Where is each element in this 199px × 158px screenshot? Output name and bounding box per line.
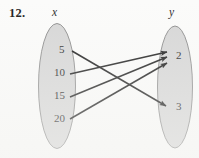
exercise-figure: 12. x y 510152023 <box>0 0 199 158</box>
mapping-arrow-5-to-3 <box>72 51 166 106</box>
range-oval <box>158 26 193 148</box>
domain-element-5: 5 <box>59 43 65 55</box>
range-element-3: 3 <box>176 100 182 112</box>
mapping-diagram <box>0 0 199 158</box>
domain-oval <box>39 24 76 149</box>
domain-element-10: 10 <box>54 66 65 78</box>
domain-element-15: 15 <box>54 89 65 101</box>
mapping-arrows <box>70 51 167 119</box>
domain-element-20: 20 <box>54 112 65 124</box>
range-element-2: 2 <box>176 49 182 61</box>
